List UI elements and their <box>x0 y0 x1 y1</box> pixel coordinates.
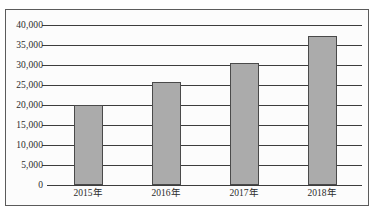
y-axis-label-20000: 20,000 <box>0 101 43 111</box>
x-axis-label-2017: 2017年 <box>205 189 283 199</box>
x-axis-label-2018: 2018年 <box>283 189 361 199</box>
y-axis-label-40000: 40,000 <box>0 21 43 31</box>
y-axis-label-0: 0 <box>0 181 43 191</box>
bar-2017[interactable] <box>230 63 259 185</box>
x-axis-baseline <box>47 185 362 186</box>
gridline-40000 <box>47 25 362 26</box>
y-axis-label-10000: 10,000 <box>0 141 43 151</box>
y-axis-label-25000: 25,000 <box>0 81 43 91</box>
y-axis-label-15000: 15,000 <box>0 121 43 131</box>
bar-2018[interactable] <box>308 36 337 185</box>
bar-2015[interactable] <box>74 105 103 185</box>
x-axis-label-2015: 2015年 <box>49 189 127 199</box>
bar-chart: 40,000 35,000 30,000 25,000 20,000 15,00… <box>0 0 377 215</box>
x-axis-label-2016: 2016年 <box>127 189 205 199</box>
bar-2016[interactable] <box>152 82 181 185</box>
y-axis-label-30000: 30,000 <box>0 61 43 71</box>
y-axis-label-5000: 5,000 <box>0 161 43 171</box>
y-axis-label-35000: 35,000 <box>0 41 43 51</box>
